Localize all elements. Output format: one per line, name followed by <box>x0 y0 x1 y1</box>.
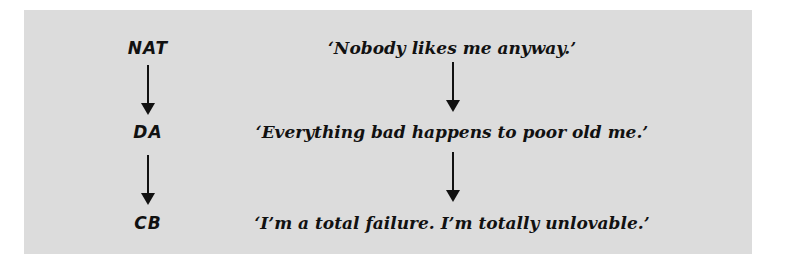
thought-nat: ‘Nobody likes me anyway.’ <box>328 38 576 58</box>
arrow-down-icon <box>147 155 149 203</box>
arrow-down-icon <box>452 62 454 110</box>
label-nat: NAT <box>128 38 168 58</box>
thought-cb: ‘I’m a total failure. I’m totally unlova… <box>254 213 649 233</box>
arrow-down-icon <box>452 152 454 200</box>
label-cb: CB <box>134 213 161 233</box>
thought-da: ‘Everything bad happens to poor old me.’ <box>256 122 649 142</box>
arrow-down-icon <box>147 65 149 113</box>
label-da: DA <box>133 122 162 142</box>
